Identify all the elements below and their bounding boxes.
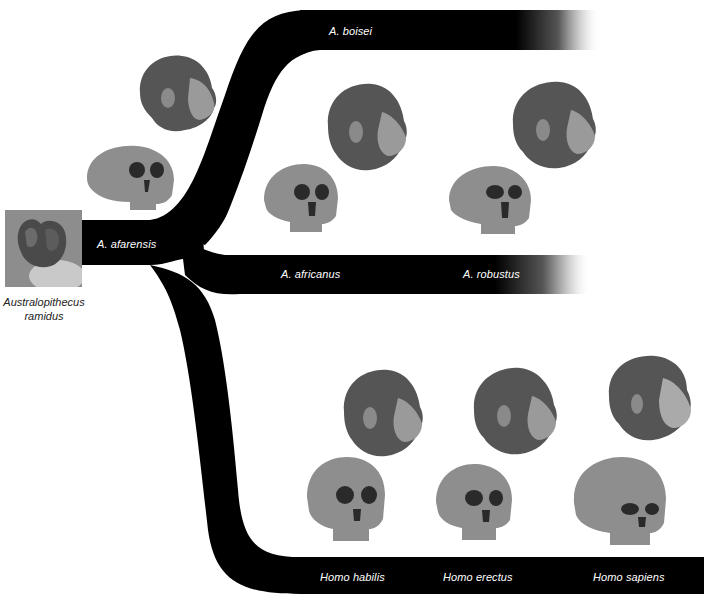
ancestor-fossil-photo	[5, 210, 82, 287]
afarensis-skull-illustration	[82, 140, 177, 212]
label-homo-habilis: Homo habilis	[320, 571, 385, 583]
label-a-afarensis: A. afarensis	[97, 238, 156, 250]
fossil-in-hand-icon	[5, 210, 82, 287]
africanus-skull-illustration	[260, 160, 340, 235]
ancestor-caption: Australopithecus ramidus	[0, 295, 88, 323]
band-middle	[225, 255, 590, 294]
label-a-robustus: A. robustus	[463, 268, 520, 280]
sapiens-head-illustration	[603, 350, 693, 450]
ancestor-species: ramidus	[0, 309, 88, 323]
erectus-skull-illustration	[432, 460, 514, 544]
label-homo-erectus: Homo erectus	[443, 571, 513, 583]
robustus-skull-illustration	[445, 162, 535, 237]
robustus-head-illustration	[505, 74, 605, 174]
habilis-skull-illustration	[303, 453, 388, 545]
afarensis-head-illustration	[130, 48, 220, 138]
erectus-head-illustration	[468, 360, 563, 460]
label-a-africanus: A. africanus	[281, 268, 340, 280]
ancestor-genus: Australopithecus	[0, 295, 88, 309]
sapiens-skull-illustration	[570, 455, 670, 550]
label-homo-sapiens: Homo sapiens	[593, 571, 665, 583]
label-a-boisei: A. boisei	[329, 25, 372, 37]
habilis-head-illustration	[338, 362, 428, 462]
